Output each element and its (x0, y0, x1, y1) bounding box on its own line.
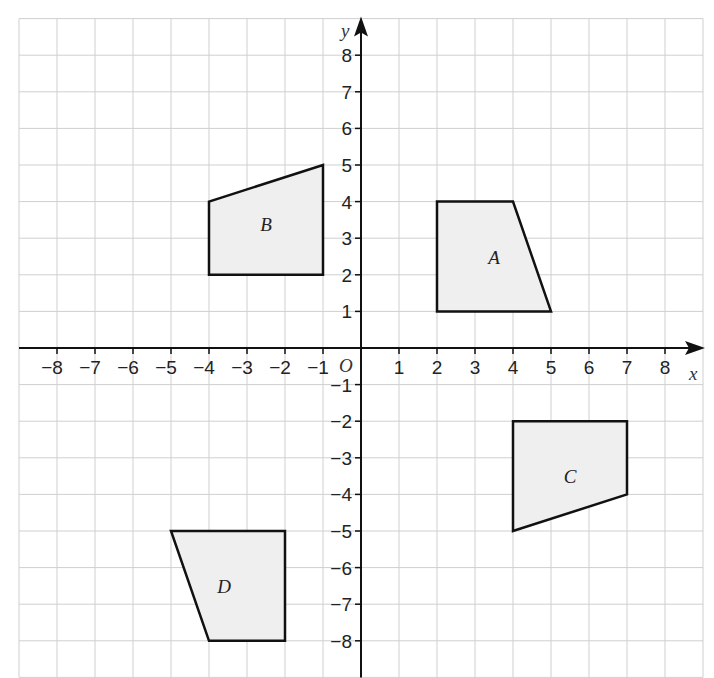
x-tick-label: 5 (546, 357, 557, 378)
y-tick-label: −5 (330, 521, 352, 542)
x-tick-label: −5 (155, 357, 177, 378)
y-tick-label: −8 (330, 631, 352, 652)
x-tick-label: −4 (193, 357, 215, 378)
y-tick-label: 5 (341, 155, 352, 176)
x-axis-label: x (688, 363, 698, 384)
y-tick-label: 8 (341, 45, 352, 66)
x-tick-label: 8 (660, 357, 671, 378)
y-tick-label: 2 (341, 265, 352, 286)
y-tick-label: −3 (330, 448, 352, 469)
y-tick-label: 7 (341, 82, 352, 103)
y-tick-label: 3 (341, 228, 352, 249)
x-tick-label: −6 (117, 357, 139, 378)
shape-label-d: D (216, 576, 231, 597)
x-tick-label: −8 (41, 357, 63, 378)
shape-label-a: A (486, 247, 500, 268)
x-tick-label: −3 (231, 357, 253, 378)
x-tick-label: 2 (432, 357, 443, 378)
y-tick-label: 4 (341, 192, 352, 213)
shape-label-c: C (564, 466, 577, 487)
y-tick-label: −6 (330, 558, 352, 579)
x-tick-label: 7 (622, 357, 633, 378)
y-axis-label: y (339, 20, 350, 41)
x-tick-label: −1 (307, 357, 329, 378)
y-tick-label: −2 (330, 411, 352, 432)
x-tick-label: −7 (79, 357, 101, 378)
x-tick-label: 1 (394, 357, 405, 378)
x-tick-label: 3 (470, 357, 481, 378)
origin-label: O (339, 355, 353, 376)
y-tick-label: 6 (341, 118, 352, 139)
x-tick-label: −2 (269, 357, 291, 378)
y-tick-label: 1 (341, 301, 352, 322)
y-tick-label: −4 (330, 484, 352, 505)
axes (19, 17, 705, 678)
y-tick-label: −7 (330, 594, 352, 615)
x-tick-label: 6 (584, 357, 595, 378)
y-tick-label: −1 (330, 375, 352, 396)
x-tick-label: 4 (508, 357, 519, 378)
coordinate-grid-diagram: ABCD−8−7−6−5−4−3−2−11234567887654321−1−2… (0, 0, 714, 678)
labels: ABCD−8−7−6−5−4−3−2−11234567887654321−1−2… (41, 20, 698, 652)
shape-label-b: B (260, 214, 272, 235)
